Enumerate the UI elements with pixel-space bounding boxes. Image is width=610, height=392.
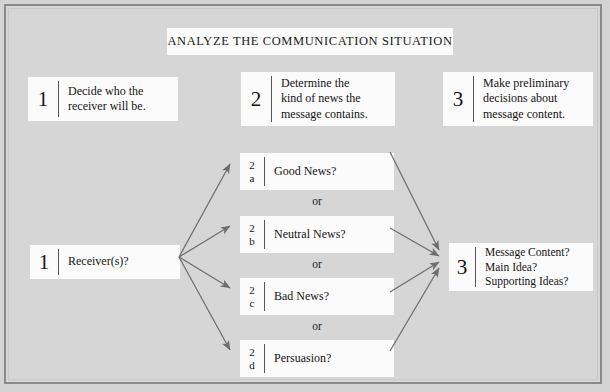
flow-branch-box-a: 2 a Good News? [240,153,394,190]
step-text-2: Determine the kind of news the message c… [272,76,395,122]
flow-branch-number-c-digit: 2 [240,284,264,297]
flow-branch-box-c: 2 c Bad News? [240,278,394,315]
step-text-1: Decide who the receiver will be. [59,84,178,115]
flow-branch-label-b: Neutral News? [265,227,394,242]
diagram-page: ANALYZE THE COMMUNICATION SITUATION 1 De… [0,0,610,392]
flow-branch-number-a-digit: 2 [240,159,264,172]
flow-start-label: Receiver(s)? [59,254,180,269]
flow-branch-label-a: Good News? [265,164,394,179]
step-box-2: 2 Determine the kind of news the message… [241,72,395,126]
flow-branch-number-b: 2 b [240,222,264,247]
step-box-3: 3 Make preliminary decisions about messa… [443,72,593,126]
flow-end-box: 3 Message Content? Main Idea? Supporting… [449,243,593,291]
flow-end-line-3: Supporting Ideas? [485,274,593,289]
flow-branch-number-a-letter: a [240,172,264,185]
flow-branch-number-b-letter: b [240,235,264,248]
flow-end-number: 3 [449,257,475,278]
step-number-2: 2 [241,89,271,110]
step-box-1: 1 Decide who the receiver will be. [28,77,178,121]
flow-branch-box-d: 2 d Persuasion? [240,340,394,377]
flow-branch-number-d: 2 d [240,346,264,371]
flow-end-lines: Message Content? Main Idea? Supporting I… [476,245,593,290]
flow-start-box: 1 Receiver(s)? [30,245,180,279]
flow-branch-number-d-digit: 2 [240,346,264,359]
flow-end-line-1: Message Content? [485,245,593,260]
step-text-3: Make preliminary decisions about message… [474,76,593,122]
or-separator-2: or [287,258,347,270]
flow-branch-label-d: Persuasion? [265,351,394,366]
flow-branch-label-c: Bad News? [265,289,394,304]
step-number-1: 1 [28,89,58,110]
diagram-title-box: ANALYZE THE COMMUNICATION SITUATION [167,28,453,55]
flow-branch-box-b: 2 b Neutral News? [240,216,394,253]
flow-start-number: 1 [30,252,58,273]
diagram-frame: ANALYZE THE COMMUNICATION SITUATION 1 De… [4,4,602,384]
flow-branch-number-d-letter: d [240,359,264,372]
or-separator-3: or [287,320,347,332]
flow-branch-number-c-letter: c [240,297,264,310]
step-number-3: 3 [443,89,473,110]
flow-branch-number-a: 2 a [240,159,264,184]
or-separator-1: or [287,195,347,207]
flow-branch-number-b-digit: 2 [240,222,264,235]
page-title: ANALYZE THE COMMUNICATION SITUATION [167,34,452,49]
flow-branch-number-c: 2 c [240,284,264,309]
flow-end-line-2: Main Idea? [485,260,593,275]
